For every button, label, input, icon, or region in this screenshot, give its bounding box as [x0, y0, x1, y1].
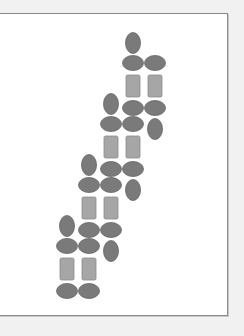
ellipse-horizontal [123, 101, 144, 116]
ellipse-vertical [82, 155, 97, 176]
ellipse-vertical [104, 94, 119, 115]
ellipse-horizontal [101, 178, 122, 193]
ellipse-horizontal [145, 101, 166, 116]
ellipse-horizontal [57, 239, 78, 254]
ellipse-vertical [60, 216, 75, 237]
ellipse-horizontal [79, 239, 100, 254]
ellipse-horizontal [57, 284, 78, 299]
ellipse-horizontal [123, 162, 144, 177]
rectangle [126, 136, 140, 158]
ellipse-vertical [148, 119, 163, 140]
rectangle [148, 75, 162, 97]
ellipse-vertical [126, 180, 141, 201]
ellipse-horizontal [101, 117, 122, 132]
rectangle [60, 258, 74, 280]
rectangle [104, 136, 118, 158]
ellipse-vertical [126, 33, 141, 54]
rectangle [82, 197, 96, 219]
diagram-canvas [0, 0, 244, 336]
ellipse-horizontal [123, 56, 144, 71]
ellipse-horizontal [123, 117, 144, 132]
ellipse-horizontal [79, 284, 100, 299]
ellipse-horizontal [145, 56, 166, 71]
ellipse-horizontal [101, 223, 122, 238]
ellipse-horizontal [79, 223, 100, 238]
rectangle [104, 197, 118, 219]
ellipse-vertical [104, 241, 119, 262]
ellipse-horizontal [79, 178, 100, 193]
rectangle [126, 75, 140, 97]
ellipse-horizontal [101, 162, 122, 177]
rectangle [82, 258, 96, 280]
